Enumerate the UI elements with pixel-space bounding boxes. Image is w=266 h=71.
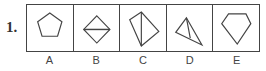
option-a[interactable] (27, 5, 74, 51)
gem-pentagon-icon (213, 5, 259, 51)
option-label-a: A (26, 54, 73, 66)
option-c[interactable] (120, 5, 167, 51)
triangle-with-inner-line-icon (167, 5, 213, 51)
option-labels: A B C D E (26, 54, 260, 66)
option-label-b: B (73, 54, 120, 66)
option-b[interactable] (74, 5, 121, 51)
question-number: 1. (6, 19, 17, 36)
option-label-e: E (213, 54, 260, 66)
quadrilateral-with-diagonal-icon (120, 5, 166, 51)
pentagon-icon (27, 5, 73, 51)
option-label-d: D (166, 54, 213, 66)
diamond-with-horizontal-line-icon (74, 5, 120, 51)
option-label-c: C (120, 54, 167, 66)
option-e[interactable] (213, 5, 259, 51)
options-strip (26, 4, 260, 52)
option-d[interactable] (167, 5, 214, 51)
